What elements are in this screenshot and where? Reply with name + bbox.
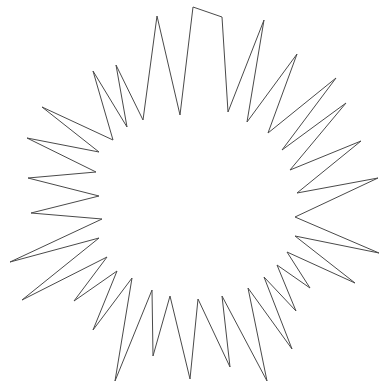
canvas-background [0, 0, 387, 387]
star-burst-figure [0, 0, 387, 387]
figure-canvas [0, 0, 387, 387]
